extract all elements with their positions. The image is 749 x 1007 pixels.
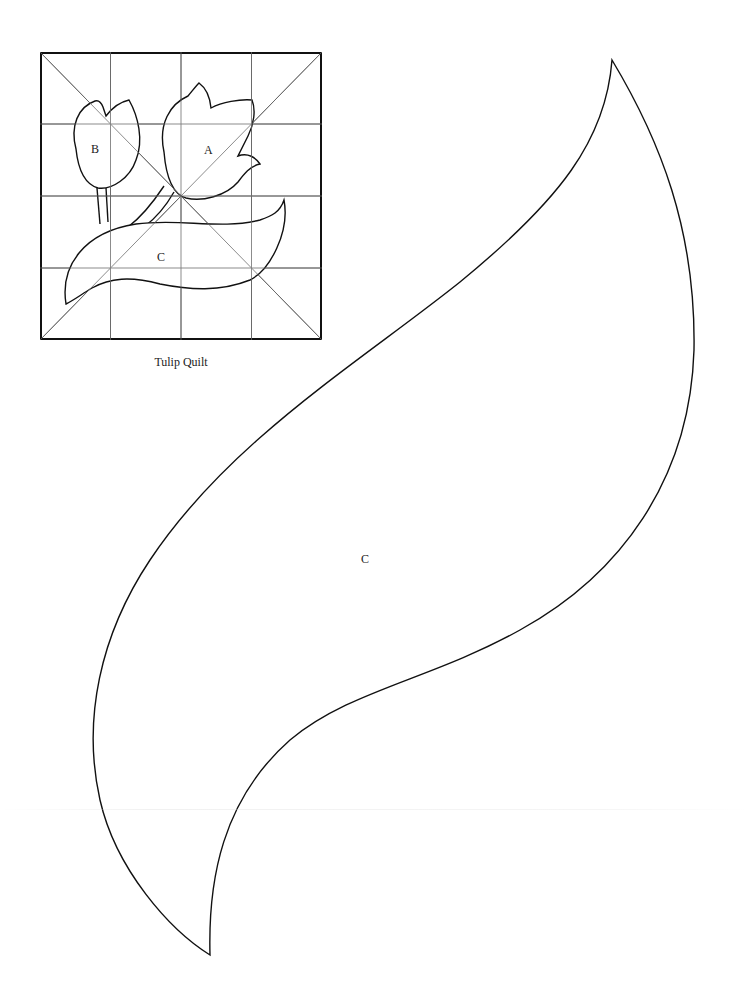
pattern-page: B A C Tulip Quilt C [0,0,749,1007]
leaf-outline [93,60,694,955]
leaf-template-c [0,0,749,1007]
scan-artifact-line [0,809,749,810]
template-piece-label: C [361,552,369,567]
